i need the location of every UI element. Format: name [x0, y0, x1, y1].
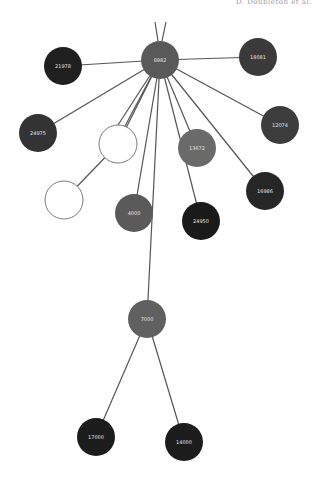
edges-layer	[38, 22, 280, 442]
graph-node-12074[interactable]: 12074	[261, 106, 299, 144]
graph-node-13672[interactable]: 13672	[178, 129, 216, 167]
graph-node-16986[interactable]: 16986	[246, 172, 284, 210]
node-label: 12074	[272, 122, 288, 128]
node-label: 24975	[30, 130, 46, 136]
graph-node-14000[interactable]: 14000	[165, 423, 203, 461]
edge-offcanvas	[155, 22, 158, 41]
graph-node-21978[interactable]: 21978	[44, 47, 82, 85]
node-label: 16986	[257, 188, 273, 194]
graph-node-4000[interactable]: 4000	[115, 194, 153, 232]
graph-node-empty[interactable]	[45, 181, 83, 219]
network-graph: 8982219781808124975120741367216986400024…	[0, 0, 316, 481]
node-label: 8982	[154, 57, 167, 63]
nodes-layer: 8982219781808124975120741367216986400024…	[19, 38, 299, 461]
edge-n9-n11	[147, 319, 184, 442]
graph-node-8982[interactable]: 8982	[141, 41, 179, 79]
edge-hub-n6	[160, 60, 265, 191]
node-label: 7000	[141, 316, 154, 322]
graph-node-empty[interactable]	[99, 125, 137, 163]
node-circle[interactable]	[99, 125, 137, 163]
graph-node-18081[interactable]: 18081	[239, 38, 277, 76]
graph-node-7000[interactable]: 7000	[128, 300, 166, 338]
node-label: 4000	[128, 210, 141, 216]
node-label: 14000	[176, 439, 192, 445]
graph-node-24975[interactable]: 24975	[19, 114, 57, 152]
node-label: 24950	[193, 218, 209, 224]
node-label: 18081	[250, 54, 266, 60]
node-label: 13672	[189, 145, 205, 151]
edge-n9-n10	[96, 319, 147, 437]
node-label: 21978	[55, 63, 71, 69]
edge-offcanvas	[162, 22, 166, 41]
graph-node-17000[interactable]: 17000	[77, 418, 115, 456]
node-circle[interactable]	[45, 181, 83, 219]
network-graph-canvas: D. Doubleton et al. 89822197818081249751…	[0, 0, 316, 481]
graph-node-24950[interactable]: 24950	[182, 202, 220, 240]
node-label: 17000	[88, 434, 104, 440]
